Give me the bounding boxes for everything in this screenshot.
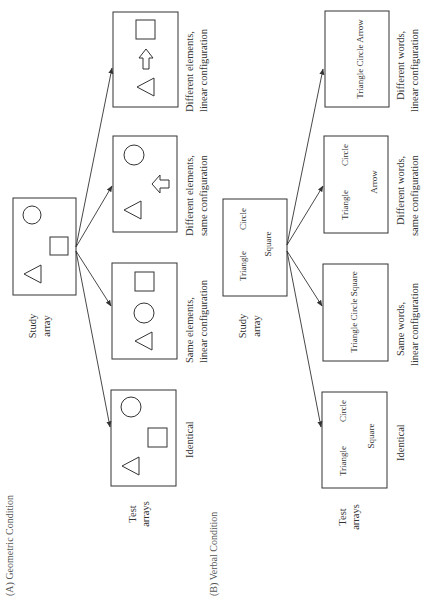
word-circle: Circle: [340, 144, 350, 166]
verbal-study-array-label-1: Study: [237, 313, 248, 338]
study-word-square: Square: [263, 232, 273, 257]
square-icon: [50, 237, 68, 255]
line-words: Triangle Circle Arrow: [355, 19, 365, 99]
line-words: Triangle Circle Square: [349, 271, 359, 353]
square-icon: [136, 20, 155, 39]
verbal-panel: Triangle Circle Square Study array Trian…: [223, 11, 420, 530]
circle-icon: [134, 303, 154, 323]
verbal-condition-title: (B) Verbal Condition: [208, 512, 220, 596]
verbal-test-diff-linear: Triangle Circle Arrow: [325, 11, 389, 107]
figure-canvas: (A) Geometric Condition (B) Verbal Condi…: [0, 0, 440, 599]
arrow-icon: [139, 49, 153, 69]
caption-same-words-linear-1: Same words,: [395, 302, 406, 356]
triangle-icon: [24, 265, 41, 283]
triangle-icon: [135, 332, 152, 350]
word-arrow: Arrow: [369, 170, 379, 194]
caption-diff-same-1: Different elements,: [184, 155, 195, 236]
caption-same-words-linear-2: linear configuration: [409, 282, 420, 366]
circle-icon: [121, 397, 141, 417]
caption-diff-words-linear-1: Different words,: [395, 31, 406, 100]
caption-verbal-identical: Identical: [395, 424, 406, 461]
arrow-to-diff-same: [76, 186, 112, 247]
caption-diff-linear-1: Different elements,: [184, 31, 195, 112]
arrow-to-diff-words-linear: [287, 69, 323, 245]
arrow-icon: [152, 175, 169, 193]
triangle-icon: [137, 78, 154, 96]
test-arrays-label-2: arrays: [140, 501, 151, 527]
verbal-test-identical: Triangle Circle Square: [322, 392, 387, 488]
word-triangle: Triangle: [338, 446, 348, 476]
caption-diff-words-same-2: same configuration: [409, 154, 420, 236]
geometric-condition-title: (A) Geometric Condition: [4, 495, 16, 596]
study-array-label: Study: [27, 313, 38, 338]
test-arrays-label-1: Test: [127, 505, 138, 522]
caption-identical: Identical: [184, 421, 195, 458]
verbal-test-arrays-label-2: arrays: [350, 504, 361, 530]
caption-same-linear-2: linear configuration: [198, 279, 209, 363]
word-triangle: Triangle: [340, 190, 350, 220]
word-circle: Circle: [338, 400, 348, 422]
verbal-test-diff-same: Triangle Circle Arrow: [324, 136, 388, 233]
word-square: Square: [366, 424, 376, 449]
study-array-label-2: array: [41, 314, 52, 336]
verbal-test-same-linear: Triangle Circle Square: [323, 264, 388, 361]
caption-diff-same-2: same configuration: [198, 154, 209, 236]
verbal-test-arrays-label-1: Test: [337, 508, 348, 525]
geometric-study-array: [13, 198, 76, 295]
geometric-test-diff-linear: [113, 12, 178, 107]
geometric-test-diff-same: [113, 136, 177, 232]
verbal-study-array: Triangle Circle Square: [223, 199, 287, 296]
triangle-icon: [124, 201, 141, 219]
caption-diff-linear-2: linear configuration: [198, 28, 209, 112]
caption-same-linear-1: Same elements,: [184, 297, 195, 363]
verbal-study-array-label-2: array: [251, 314, 262, 336]
square-icon: [135, 272, 154, 291]
caption-diff-words-linear-2: linear configuration: [409, 28, 420, 112]
geometric-test-same-linear: [112, 263, 177, 359]
caption-diff-words-same-1: Different words,: [395, 156, 406, 225]
arrow-to-diff-words-same: [287, 186, 323, 245]
square-icon: [148, 428, 167, 447]
triangle-icon: [122, 457, 139, 475]
geometric-panel: Study array Different elements, linear c…: [13, 12, 209, 527]
arrow-to-diff-linear: [76, 68, 112, 247]
circle-icon: [23, 206, 41, 224]
circle-icon: [124, 145, 144, 165]
study-word-circle: Circle: [238, 208, 248, 230]
study-word-triangle: Triangle: [238, 251, 248, 281]
geometric-test-identical: [111, 390, 176, 486]
